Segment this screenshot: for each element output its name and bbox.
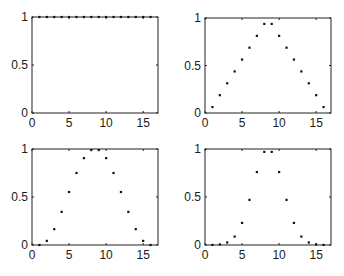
data-point — [75, 16, 77, 18]
data-point — [46, 16, 48, 18]
y-tick-label: 0 — [21, 106, 28, 120]
data-point — [293, 58, 295, 60]
axes-frame — [205, 149, 331, 245]
data-point — [53, 16, 55, 18]
x-tick-label: 10 — [272, 116, 286, 130]
plot-top-right: 05101500.51 — [184, 11, 331, 130]
y-tick-label: 0.5 — [11, 190, 28, 204]
data-point — [278, 171, 280, 173]
y-tick-label: 1 — [21, 142, 28, 156]
data-point — [300, 70, 302, 72]
data-point — [75, 172, 77, 174]
data-point — [38, 244, 40, 246]
data-point — [241, 222, 243, 224]
x-tick-label: 5 — [239, 248, 246, 262]
data-point — [105, 16, 107, 18]
x-tick-label: 10 — [99, 116, 113, 130]
data-point — [300, 235, 302, 237]
x-tick-label: 10 — [99, 248, 113, 262]
data-point — [322, 244, 324, 246]
figure: 05101500.51 05101500.51 05101500.51 0510… — [0, 0, 344, 276]
y-tick-label: 0.5 — [184, 190, 201, 204]
data-point — [38, 16, 40, 18]
data-point — [61, 211, 63, 213]
data-point — [142, 240, 144, 242]
data-point — [308, 241, 310, 243]
x-tick-label: 5 — [66, 248, 73, 262]
data-point — [53, 228, 55, 230]
x-tick-label: 10 — [272, 248, 286, 262]
y-tick-label: 1 — [194, 11, 201, 25]
data-point — [68, 16, 70, 18]
data-point — [90, 16, 92, 18]
data-point — [61, 16, 63, 18]
data-point — [226, 82, 228, 84]
data-point — [256, 35, 258, 37]
data-point — [234, 70, 236, 72]
data-point — [263, 23, 265, 25]
data-point — [142, 16, 144, 18]
y-tick-label: 1 — [194, 142, 201, 156]
data-point — [293, 222, 295, 224]
axes-frame — [32, 17, 158, 113]
x-tick-label: 15 — [309, 248, 323, 262]
data-point — [219, 94, 221, 96]
data-point — [308, 82, 310, 84]
axes-frame — [32, 149, 158, 245]
x-tick-label: 15 — [136, 248, 150, 262]
data-point — [135, 228, 137, 230]
data-point — [127, 16, 129, 18]
y-tick-label: 0 — [194, 238, 201, 252]
data-point — [234, 235, 236, 237]
data-point — [241, 58, 243, 60]
data-point — [68, 191, 70, 193]
data-point — [285, 199, 287, 201]
data-point — [285, 47, 287, 49]
data-point — [83, 16, 85, 18]
data-point — [248, 199, 250, 201]
data-point — [271, 151, 273, 153]
plot-top-left: 05101500.51 — [11, 10, 158, 130]
axes-frame — [205, 18, 331, 113]
y-tick-label: 0.5 — [11, 58, 28, 72]
data-point — [98, 16, 100, 18]
data-point — [90, 149, 92, 151]
data-point — [256, 171, 258, 173]
data-point — [263, 151, 265, 153]
data-point — [219, 243, 221, 245]
x-tick-label: 15 — [136, 116, 150, 130]
x-tick-label: 5 — [239, 116, 246, 130]
data-point — [226, 241, 228, 243]
data-point — [112, 16, 114, 18]
data-point — [149, 16, 151, 18]
data-point — [315, 94, 317, 96]
x-tick-label: 5 — [66, 116, 73, 130]
data-point — [211, 106, 213, 108]
data-point — [120, 191, 122, 193]
data-point — [211, 244, 213, 246]
data-point — [120, 16, 122, 18]
plot-bottom-right: 05101500.51 — [184, 142, 331, 262]
plot-bottom-left: 05101500.51 — [11, 142, 158, 262]
data-point — [278, 35, 280, 37]
x-tick-label: 0 — [202, 116, 209, 130]
data-point — [149, 244, 151, 246]
x-tick-label: 0 — [29, 248, 36, 262]
data-point — [127, 211, 129, 213]
y-tick-label: 0 — [21, 238, 28, 252]
x-tick-label: 0 — [202, 248, 209, 262]
data-point — [315, 243, 317, 245]
x-tick-label: 15 — [309, 116, 323, 130]
data-point — [271, 23, 273, 25]
data-point — [248, 47, 250, 49]
data-point — [83, 157, 85, 159]
data-point — [135, 16, 137, 18]
data-point — [105, 157, 107, 159]
x-tick-label: 0 — [29, 116, 36, 130]
data-point — [322, 106, 324, 108]
data-point — [46, 240, 48, 242]
data-point — [98, 149, 100, 151]
y-tick-label: 0.5 — [184, 59, 201, 73]
y-tick-label: 0 — [194, 106, 201, 120]
data-point — [112, 172, 114, 174]
